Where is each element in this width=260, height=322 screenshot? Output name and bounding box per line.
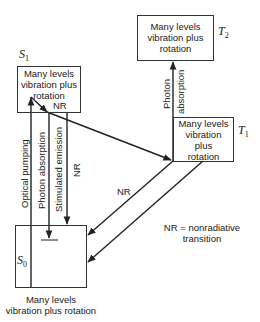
nr-s1-internal-label: NR <box>53 100 67 111</box>
nr-t1-s0-label: NR <box>117 186 131 197</box>
nr-s1-s0-label: NR <box>71 163 82 177</box>
state-box-s1-text: Many levels vibration plus rotation <box>17 68 81 101</box>
absorption-label-t: absorption <box>175 70 186 114</box>
state-label-t1: T1 <box>238 123 249 139</box>
state-box-t2-text: Many levels vibration plus rotation <box>137 21 214 54</box>
state-label-s1: S1 <box>19 47 29 63</box>
state-s0-description: Many levels vibration plus rotation <box>0 294 102 316</box>
nr-legend: NR = nonradiative transition <box>156 222 248 244</box>
photon-label-t: Photon <box>161 79 172 109</box>
stimulated-emission-label: Stimulated emission <box>53 127 64 212</box>
photon-absorption-s-label: Photon absorption <box>36 132 47 209</box>
state-label-t2: T2 <box>218 24 229 40</box>
isc-s1-t1-arrow <box>47 112 171 160</box>
state-label-s0: S0 <box>17 253 27 269</box>
state-box-t1-text: Many levels vibration plus rotation <box>173 118 234 162</box>
optical-pumping-label: Optical pumping <box>19 139 30 208</box>
nr-t1-s0-arrow-lower <box>88 161 203 262</box>
